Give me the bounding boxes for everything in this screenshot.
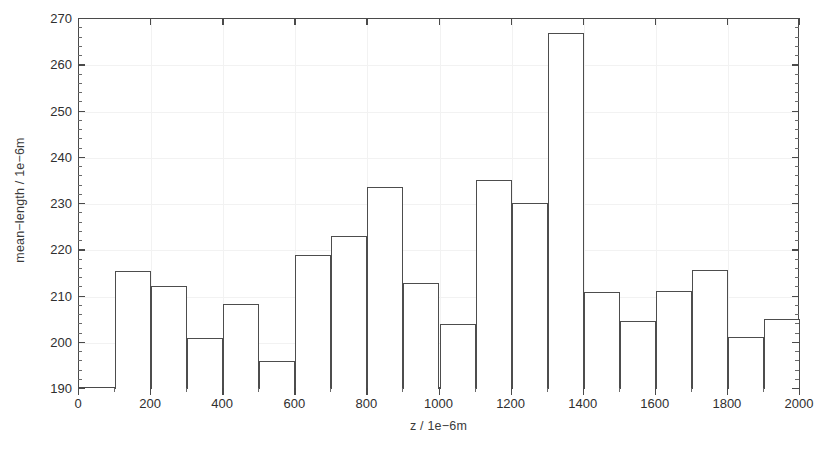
x-axis-tick-top	[799, 18, 800, 25]
y-axis-minor-tick	[78, 92, 82, 93]
histogram-bar	[295, 255, 331, 389]
y-axis-minor-tick-right	[795, 129, 799, 130]
y-axis-minor-tick	[78, 305, 82, 306]
x-axis-tick	[439, 388, 440, 395]
y-axis-minor-tick-right	[795, 277, 799, 278]
y-axis-tick-right	[792, 157, 799, 158]
y-axis-minor-tick-right	[795, 166, 799, 167]
x-axis-tick	[78, 388, 79, 395]
x-axis-minor-tick	[402, 388, 403, 392]
gridline-horizontal	[79, 112, 798, 113]
y-axis-tick-label: 210	[12, 288, 72, 303]
y-axis-tick-label: 220	[12, 242, 72, 257]
y-axis-minor-tick-right	[795, 194, 799, 195]
x-axis-tick-label: 1400	[548, 396, 618, 411]
x-axis-tick-top	[78, 18, 79, 25]
y-axis-tick-label: 200	[12, 334, 72, 349]
y-axis-minor-tick	[78, 185, 82, 186]
y-axis-minor-tick-right	[795, 212, 799, 213]
x-axis-tick	[583, 388, 584, 395]
y-axis-tick-right	[792, 249, 799, 250]
x-axis-minor-tick	[114, 388, 115, 392]
x-axis-minor-tick	[258, 388, 259, 392]
histogram-bar	[476, 180, 512, 389]
y-axis-minor-tick	[78, 333, 82, 334]
gridline-horizontal	[79, 204, 798, 205]
x-axis-tick-label: 200	[115, 396, 185, 411]
y-axis-minor-tick	[78, 101, 82, 102]
gridline-horizontal	[79, 158, 798, 159]
y-axis-tick-label: 240	[12, 149, 72, 164]
y-axis-minor-tick-right	[795, 185, 799, 186]
y-axis-minor-tick	[78, 55, 82, 56]
y-axis-tick-right	[792, 296, 799, 297]
y-axis-minor-tick-right	[795, 314, 799, 315]
y-axis-minor-tick	[78, 120, 82, 121]
x-axis-tick-label: 1000	[404, 396, 474, 411]
x-axis-tick	[799, 388, 800, 395]
y-axis-tick-label: 270	[12, 11, 72, 26]
x-axis-tick	[727, 388, 728, 395]
y-axis-minor-tick-right	[795, 148, 799, 149]
histogram-bar	[403, 283, 439, 389]
y-axis-tick-right	[792, 111, 799, 112]
y-axis-minor-tick-right	[795, 55, 799, 56]
y-axis-minor-tick	[78, 314, 82, 315]
x-axis-tick-top	[583, 18, 584, 25]
y-axis-minor-tick	[78, 379, 82, 380]
y-axis-minor-tick-right	[795, 259, 799, 260]
x-axis-minor-tick	[547, 388, 548, 392]
y-axis-minor-tick-right	[795, 101, 799, 102]
x-axis-minor-tick	[763, 388, 764, 392]
histogram-bar	[151, 286, 187, 389]
y-axis-minor-tick	[78, 323, 82, 324]
x-axis-label: z / 1e−6m	[78, 419, 799, 433]
histogram-bar	[331, 236, 367, 389]
x-axis-minor-tick	[691, 388, 692, 392]
y-axis-tick	[78, 203, 85, 204]
histogram-bar	[728, 337, 764, 389]
x-axis-tick-label: 800	[331, 396, 401, 411]
histogram-bar	[620, 321, 656, 389]
y-axis-minor-tick-right	[795, 37, 799, 38]
histogram-bar	[187, 338, 223, 389]
x-axis-tick-label: 2000	[764, 396, 822, 411]
x-axis-tick-top	[439, 18, 440, 25]
gridline-horizontal	[79, 250, 798, 251]
y-axis-minor-tick-right	[795, 268, 799, 269]
y-axis-tick-right	[792, 64, 799, 65]
histogram-bar	[692, 270, 728, 389]
y-axis-minor-tick	[78, 148, 82, 149]
x-axis-minor-tick	[330, 388, 331, 392]
y-axis-minor-tick	[78, 27, 82, 28]
y-axis-tick-right	[792, 203, 799, 204]
y-axis-tick-labels: 190200210220230240250260270	[8, 0, 72, 452]
x-axis-tick	[511, 388, 512, 395]
y-axis-minor-tick	[78, 37, 82, 38]
y-axis-minor-tick-right	[795, 231, 799, 232]
x-axis-tick-top	[727, 18, 728, 25]
plot-area	[78, 18, 799, 388]
y-axis-minor-tick	[78, 277, 82, 278]
x-axis-tick-top	[511, 18, 512, 25]
x-axis-tick-label: 1600	[620, 396, 690, 411]
y-axis-minor-tick	[78, 231, 82, 232]
x-axis-tick-label: 1200	[476, 396, 546, 411]
x-axis-tick-top	[655, 18, 656, 25]
gridline-horizontal	[79, 65, 798, 66]
y-axis-tick	[78, 64, 85, 65]
y-axis-minor-tick	[78, 259, 82, 260]
y-axis-minor-tick	[78, 166, 82, 167]
x-axis-tick	[222, 388, 223, 395]
y-axis-minor-tick-right	[795, 46, 799, 47]
y-axis-minor-tick	[78, 286, 82, 287]
y-axis-minor-tick-right	[795, 305, 799, 306]
y-axis-minor-tick	[78, 222, 82, 223]
y-axis-minor-tick-right	[795, 27, 799, 28]
y-axis-minor-tick	[78, 194, 82, 195]
y-axis-tick-label: 250	[12, 103, 72, 118]
y-axis-minor-tick-right	[795, 370, 799, 371]
histogram-bar	[223, 304, 259, 389]
y-axis-tick	[78, 342, 85, 343]
x-axis-tick-top	[366, 18, 367, 25]
